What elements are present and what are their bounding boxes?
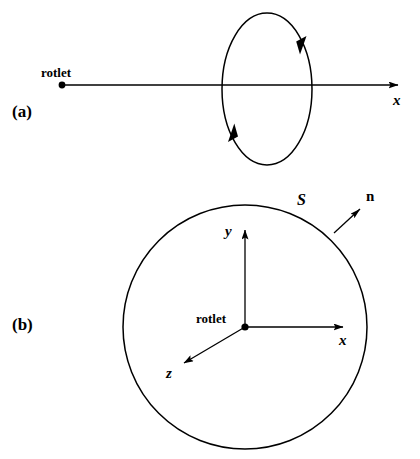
normal-vector-arrow — [334, 209, 360, 233]
z-axis-line-panel-b — [184, 327, 245, 363]
z-axis-label-panel-b: z — [166, 366, 172, 381]
rotlet-label-panel-a: rotlet — [41, 66, 71, 79]
panel-a-tag: (a) — [12, 103, 32, 120]
rotlet-point-panel-a — [59, 82, 66, 89]
panel-b-graphics — [123, 205, 367, 449]
panel-b-tag: (b) — [12, 316, 33, 333]
x-axis-label-panel-b: x — [339, 333, 347, 348]
x-axis-label-panel-a: x — [393, 93, 401, 108]
normal-vector-label: n — [366, 189, 374, 204]
panel-a-graphics — [59, 13, 398, 165]
figure-rotlet-diagram: (a) rotlet x (b) rotlet y x z S n — [0, 0, 420, 459]
rotlet-label-panel-b: rotlet — [196, 312, 226, 325]
circulation-ellipse — [222, 13, 312, 165]
y-axis-label-panel-b: y — [225, 224, 232, 239]
circulation-arrow-right-icon — [296, 36, 306, 55]
surface-label: S — [297, 192, 306, 208]
rotlet-point-panel-b — [241, 323, 248, 330]
